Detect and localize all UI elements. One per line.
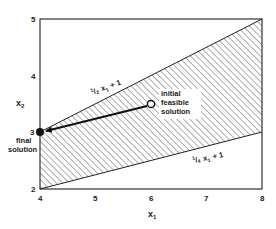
x-axis-label: x1 [148, 209, 157, 220]
lower-line-label: 1/4x1+ 1 [191, 149, 224, 166]
x-tick-8: 8 [260, 194, 265, 203]
final-solution-label-1: final [16, 136, 31, 145]
final-point-marker [36, 128, 44, 136]
y-tick-2: 2 [31, 185, 36, 194]
final-solution-label-2: solution [8, 145, 38, 154]
y-tick-4: 4 [31, 72, 36, 81]
initial-solution-label-1: initial [161, 89, 181, 98]
initial-point-marker [147, 100, 154, 107]
initial-solution-label-3: solution [161, 107, 191, 116]
initial-solution-label-2: feasible [161, 98, 189, 107]
y-axis-label: x2 [16, 98, 25, 109]
x-tick-4: 4 [38, 194, 43, 203]
x-tick-5: 5 [93, 194, 98, 203]
lp-diagram: 5 4 3 2 4 5 6 7 8 x1 x2 1/2x1+ 1 1/4x1+ … [0, 0, 276, 229]
y-tick-5: 5 [31, 15, 36, 24]
x-tick-7: 7 [204, 194, 209, 203]
x-tick-6: 6 [149, 194, 154, 203]
